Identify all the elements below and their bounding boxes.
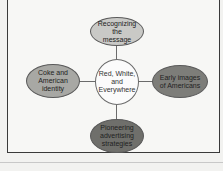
divider	[0, 162, 223, 163]
node-top-label: Recognizing the message	[97, 20, 137, 44]
node-bottom-label: Pioneering advertising strategies	[97, 124, 137, 148]
center-node: Red, White, and Everywhere	[95, 59, 139, 105]
node-right-label: Early images of Americans	[159, 74, 201, 90]
center-node-label: Red, White, and Everywhere	[96, 70, 138, 94]
node-top: Recognizing the message	[90, 17, 144, 46]
node-left-label: Coke and American identity	[34, 69, 72, 93]
connector-left	[78, 81, 96, 82]
node-left: Coke and American identity	[26, 64, 80, 98]
node-bottom: Pioneering advertising strategies	[90, 119, 144, 153]
node-right: Early images of Americans	[152, 65, 208, 98]
connector-top	[116, 44, 117, 60]
